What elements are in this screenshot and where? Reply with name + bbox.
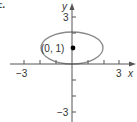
y-tick-label-neg3: −3: [57, 107, 69, 118]
y-tick-label-pos3: 3: [63, 12, 69, 23]
x-tick-label-pos3: 3: [116, 68, 122, 79]
point-label: (0, 1): [41, 43, 64, 54]
x-axis-arrow-icon: [129, 62, 136, 67]
graph: c. (0, 1) y x −3 3 3 −3: [0, 0, 137, 122]
y-axis-label: y: [61, 1, 68, 12]
part-label: c.: [0, 0, 5, 10]
y-axis-arrow-icon: [70, 3, 75, 10]
x-axis-label: x: [127, 68, 134, 79]
center-point: [71, 46, 76, 51]
x-tick-label-neg3: −3: [16, 68, 28, 79]
